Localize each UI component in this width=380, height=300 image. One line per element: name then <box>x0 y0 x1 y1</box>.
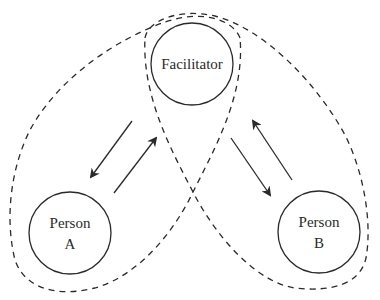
arrow-person-a-to-facilitator <box>114 138 156 193</box>
node-person-a: Person A <box>29 192 111 274</box>
arrow-facilitator-to-person-a <box>91 121 132 177</box>
triad-diagram: Facilitator Person A Person B <box>0 0 380 300</box>
node-facilitator: Facilitator <box>151 23 233 105</box>
facilitator-label: Facilitator <box>161 56 223 72</box>
person-b-label-line2: B <box>314 235 324 251</box>
person-a-label-line2: A <box>65 236 76 252</box>
person-a-label-line1: Person <box>50 215 91 231</box>
arrow-facilitator-to-person-b <box>231 138 270 195</box>
person-b-label-line1: Person <box>299 214 340 230</box>
node-person-b: Person B <box>278 191 360 273</box>
arrow-person-b-to-facilitator <box>253 121 292 180</box>
